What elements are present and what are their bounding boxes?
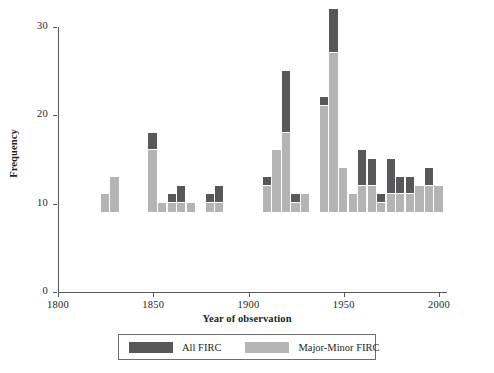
- bar: [377, 194, 385, 212]
- y-axis-tick: [53, 115, 57, 116]
- bar: [396, 177, 404, 212]
- bar-segment-major-minor-firc: [396, 194, 404, 212]
- bar: [215, 186, 223, 213]
- bar: [434, 186, 442, 213]
- bar: [291, 194, 299, 212]
- y-axis-tick-label: 30: [22, 20, 48, 31]
- bar-segment-major-minor-firc: [148, 150, 156, 212]
- bar: [168, 194, 176, 212]
- bar-segment-major-minor-firc: [425, 186, 433, 213]
- bar-segment-all-firc: [177, 186, 185, 203]
- bar-segment-major-minor-firc: [377, 203, 385, 212]
- x-axis-tick: [439, 293, 440, 297]
- legend-row: All FIRC Major-Minor FIRC: [119, 335, 375, 359]
- bar-segment-all-firc: [387, 159, 395, 193]
- bar-segment-major-minor-firc: [263, 186, 271, 213]
- bar-segment-all-firc: [148, 133, 156, 150]
- bar: [148, 133, 156, 213]
- y-axis-tick: [53, 27, 57, 28]
- bar-segment-major-minor-firc: [301, 194, 309, 212]
- legend-swatch-all-firc: [129, 342, 173, 353]
- bar-segment-all-firc: [320, 97, 328, 105]
- x-axis-tick: [249, 293, 250, 297]
- y-axis-tick-label: 20: [22, 108, 48, 119]
- bar: [110, 177, 118, 212]
- bar-segment-major-minor-firc: [415, 186, 423, 213]
- legend-item-major-minor-firc: Major-Minor FIRC: [245, 342, 379, 353]
- x-axis-tick-label: 1950: [324, 299, 364, 310]
- bar-segment-major-minor-firc: [320, 106, 328, 212]
- bar: [349, 194, 357, 212]
- bar-segment-all-firc: [406, 177, 414, 194]
- y-axis-tick-label: 0: [22, 285, 48, 296]
- bar: [101, 194, 109, 212]
- bar: [206, 194, 214, 212]
- bar-segment-major-minor-firc: [368, 186, 376, 213]
- x-axis-tick: [58, 293, 59, 297]
- bar: [263, 177, 271, 212]
- bar-segment-all-firc: [358, 150, 366, 184]
- x-axis-tick: [344, 293, 345, 297]
- bar-segment-all-firc: [263, 177, 271, 185]
- bar: [320, 97, 328, 212]
- bar-segment-all-firc: [168, 194, 176, 202]
- bar-segment-major-minor-firc: [358, 186, 366, 213]
- x-axis-tick: [153, 293, 154, 297]
- bar-segment-major-minor-firc: [158, 203, 166, 212]
- bar: [187, 203, 195, 212]
- bar-segment-major-minor-firc: [215, 203, 223, 212]
- y-axis-label: Frequency: [8, 114, 19, 194]
- bar-segment-major-minor-firc: [387, 194, 395, 212]
- bar: [158, 203, 166, 212]
- bar-segment-all-firc: [206, 194, 214, 202]
- bar: [358, 150, 366, 212]
- bar-segment-major-minor-firc: [206, 203, 214, 212]
- bar: [425, 168, 433, 212]
- bar: [339, 168, 347, 212]
- legend-item-all-firc: All FIRC: [129, 342, 221, 353]
- legend-label-major-minor-firc: Major-Minor FIRC: [298, 342, 379, 353]
- bar-segment-major-minor-firc: [272, 150, 280, 212]
- chart-legend: All FIRC Major-Minor FIRC: [118, 334, 376, 360]
- bar-segment-major-minor-firc: [101, 194, 109, 212]
- x-axis-label: Year of observation: [0, 313, 494, 324]
- bar-segment-all-firc: [377, 194, 385, 202]
- bar-segment-major-minor-firc: [187, 203, 195, 212]
- chart-figure: 180018501900195020000102030 Year of obse…: [0, 0, 494, 373]
- bar: [406, 177, 414, 212]
- bar: [272, 150, 280, 212]
- bar-segment-major-minor-firc: [291, 203, 299, 212]
- bar-segment-all-firc: [215, 186, 223, 203]
- bar-segment-major-minor-firc: [406, 194, 414, 212]
- bar-segment-major-minor-firc: [349, 194, 357, 212]
- bar: [415, 186, 423, 213]
- y-axis-tick: [53, 204, 57, 205]
- bar-segment-major-minor-firc: [110, 177, 118, 212]
- plot-area: 180018501900195020000102030 Year of obse…: [0, 0, 494, 373]
- bar-segment-all-firc: [291, 194, 299, 202]
- bar: [301, 194, 309, 212]
- bar: [282, 71, 290, 212]
- x-axis-tick-label: 1900: [229, 299, 269, 310]
- bar-segment-major-minor-firc: [168, 203, 176, 212]
- bar-segment-all-firc: [425, 168, 433, 185]
- y-axis-tick-label: 10: [22, 197, 48, 208]
- bar: [177, 186, 185, 213]
- legend-swatch-major-minor-firc: [245, 342, 289, 353]
- bars-layer: [0, 0, 494, 293]
- bar-segment-major-minor-firc: [339, 168, 347, 212]
- x-axis-tick-label: 1800: [38, 299, 78, 310]
- bar-segment-all-firc: [396, 177, 404, 194]
- bar-segment-all-firc: [282, 71, 290, 132]
- bar-segment-major-minor-firc: [177, 203, 185, 212]
- x-axis-tick-label: 1850: [133, 299, 173, 310]
- bar: [387, 159, 395, 212]
- bar-segment-major-minor-firc: [434, 186, 442, 213]
- y-axis-tick: [53, 292, 57, 293]
- bar-segment-all-firc: [329, 9, 337, 52]
- bar-segment-all-firc: [368, 159, 376, 185]
- bar-segment-major-minor-firc: [329, 53, 337, 212]
- x-axis-tick-label: 2000: [419, 299, 459, 310]
- bar-segment-major-minor-firc: [282, 133, 290, 213]
- legend-label-all-firc: All FIRC: [182, 342, 221, 353]
